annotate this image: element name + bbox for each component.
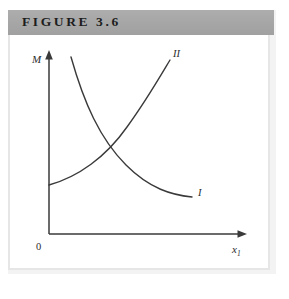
y-axis-label: M [31,53,42,65]
curve-two-label: II [172,48,180,59]
figure-root: FIGURE 3.6 M x1 [0,0,289,299]
plot-canvas: M x1 0 I II [10,35,272,270]
x-axis [49,230,247,238]
curve-two-path [49,60,170,185]
figure-card: FIGURE 3.6 M x1 [8,10,276,274]
x-axis-label-sub: 1 [237,249,241,258]
figure-header-title: FIGURE 3.6 [22,14,121,30]
origin-label: 0 [36,241,41,252]
x-axis-label: x1 [231,243,241,258]
y-axis [45,50,53,234]
figure-panel: M x1 0 I II [8,35,270,270]
curve-one-path [71,57,192,197]
figure-header-bar: FIGURE 3.6 [8,10,274,35]
curve-one-label: I [197,187,202,198]
